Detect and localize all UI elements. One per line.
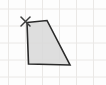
figure-stage (0, 0, 106, 85)
grid-canvas (0, 0, 106, 85)
